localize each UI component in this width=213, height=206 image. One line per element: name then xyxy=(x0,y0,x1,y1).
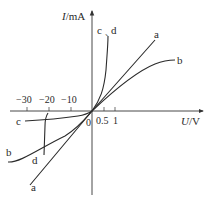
origin-label: 0 xyxy=(86,117,91,128)
curve-label-d-bottom: d xyxy=(32,155,38,166)
curve-a xyxy=(30,40,155,185)
x-axis-label: U/V xyxy=(181,116,200,127)
tick-1: 1 xyxy=(113,115,118,126)
tick-neg30: −30 xyxy=(16,94,32,105)
tick-0-5: 0.5 xyxy=(96,115,109,126)
curve-label-c-left: c xyxy=(16,116,21,127)
curve-label-a-top: a xyxy=(154,29,159,40)
tick-neg20: −20 xyxy=(39,94,55,105)
curve-label-b-bottom: b xyxy=(6,147,12,158)
curve-label-cd-top: c ˎ d xyxy=(97,25,117,36)
y-axis-unit: /mA xyxy=(66,10,86,22)
y-axis-label: I/mA xyxy=(62,11,85,22)
curve-label-a-bottom: a xyxy=(31,182,36,193)
curve-label-b-top: b xyxy=(177,55,183,66)
curve-c-reverse xyxy=(25,111,92,121)
x-ticks xyxy=(27,107,115,111)
curve-cd-forward xyxy=(92,36,108,111)
tick-neg10: −10 xyxy=(61,94,77,105)
x-axis-symbol: U xyxy=(181,115,189,127)
x-axis-unit: /V xyxy=(189,115,200,127)
